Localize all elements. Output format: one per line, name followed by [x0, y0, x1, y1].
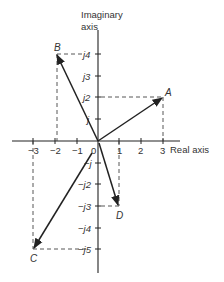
- imag-tick-label: −j4: [78, 223, 91, 234]
- real-axis-label: Real axis: [170, 144, 209, 155]
- imaginary-axis-label-2: axis: [81, 21, 98, 32]
- imag-tick-label: j3: [81, 71, 91, 82]
- imag-tick-label: j4: [81, 49, 90, 60]
- phasor-diagram: Imaginary axis Real axis −3 −2 −1 0 1 2 …: [0, 0, 224, 282]
- phasor-a: [98, 98, 162, 141]
- imag-tick-label: −j5: [78, 244, 92, 255]
- imag-tick-label: −j3: [78, 201, 92, 212]
- point-label-a: A: [164, 87, 172, 98]
- imag-tick-label: −j2: [78, 179, 92, 190]
- point-label-c: C: [30, 253, 38, 264]
- phasor-b: [57, 55, 98, 141]
- phasor-d: [99, 143, 118, 205]
- point-label-d: D: [116, 210, 123, 221]
- real-tick-label: −1: [72, 145, 83, 156]
- point-label-b: B: [54, 42, 61, 53]
- real-tick-label: −2: [50, 145, 61, 156]
- imag-tick-label: j2: [81, 92, 91, 103]
- real-tick-label: 1: [117, 145, 122, 156]
- imaginary-axis-label: Imaginary: [81, 9, 123, 20]
- real-tick-label: 2: [138, 145, 143, 156]
- real-tick-label: 3: [160, 145, 165, 156]
